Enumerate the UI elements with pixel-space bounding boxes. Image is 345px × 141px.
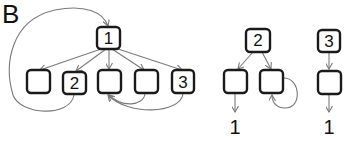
diagram: B 1 2	[0, 0, 345, 141]
node-label: 1	[104, 29, 113, 48]
edge-child2-to-root	[9, 8, 108, 111]
node-root-3: 3	[318, 30, 340, 52]
edge-child4-to-child3	[109, 94, 145, 104]
edge-root-child5	[115, 48, 182, 70]
panel-label: B	[2, 0, 19, 29]
edge-root-child1	[40, 48, 104, 70]
edge-root-right	[262, 52, 271, 69]
node-right-child	[260, 70, 283, 93]
tree-1: 1 2 3	[9, 8, 194, 111]
node-root-2: 2	[246, 29, 270, 52]
tree-3: 3 1	[318, 30, 341, 138]
node-label: 3	[324, 32, 333, 51]
node-child-1	[27, 70, 50, 93]
node-child-5: 3	[172, 70, 194, 93]
leaf-label: 1	[229, 116, 240, 138]
node-root-1: 1	[97, 27, 120, 49]
node-left-child	[224, 70, 247, 93]
node-label: 2	[70, 74, 79, 93]
leaf-label: 1	[323, 116, 334, 138]
node-label: 2	[253, 31, 262, 50]
node-child-2: 2	[63, 72, 86, 94]
edge-root-left	[238, 52, 253, 69]
node-label: 3	[178, 73, 187, 92]
node-child-4	[135, 70, 158, 93]
node-child	[318, 71, 341, 94]
node-child-3	[98, 70, 121, 93]
tree-2: 2 1	[224, 29, 297, 138]
